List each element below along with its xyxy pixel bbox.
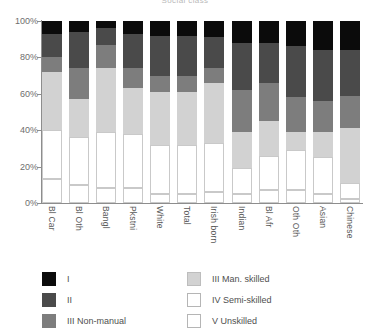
bar-oth-oth[interactable] bbox=[286, 21, 306, 203]
x-axis-label: Indian bbox=[232, 206, 252, 264]
bar-segment bbox=[150, 21, 170, 36]
bar-segment bbox=[286, 21, 306, 46]
bar-segment bbox=[259, 43, 279, 83]
bar-segment bbox=[177, 145, 197, 194]
bar-segment bbox=[259, 156, 279, 191]
bar-segment bbox=[204, 37, 224, 68]
bar-segment bbox=[177, 194, 197, 203]
bar-segment bbox=[96, 45, 116, 69]
y-axis-tick-mark bbox=[37, 21, 41, 22]
legend-swatch-icon bbox=[187, 272, 201, 286]
bar-indian[interactable] bbox=[232, 21, 252, 203]
bar-irish-born[interactable] bbox=[204, 21, 224, 203]
bar-segment bbox=[150, 92, 170, 145]
bar-segment bbox=[313, 157, 333, 193]
legend-item-label: V Unskilled bbox=[212, 316, 257, 326]
bar-segment bbox=[204, 83, 224, 143]
y-axis-tick-label: 60% bbox=[2, 89, 38, 99]
bar-segment bbox=[177, 76, 197, 92]
legend-column-right: III Man. skilledIV Semi-skilledV Unskill… bbox=[187, 272, 342, 328]
x-axis-label: Pkstni bbox=[123, 206, 143, 264]
x-axis-label: Oth Oth bbox=[286, 206, 306, 264]
x-axis-label: Bangl bbox=[96, 206, 116, 264]
bar-segment bbox=[177, 92, 197, 145]
bar-segment bbox=[123, 21, 143, 34]
bar-segment bbox=[150, 145, 170, 194]
bar-segment bbox=[232, 168, 252, 193]
bar-segment bbox=[340, 96, 360, 129]
bar-segment bbox=[340, 183, 360, 199]
bar-segment bbox=[286, 190, 306, 203]
y-axis-tick-mark bbox=[37, 203, 41, 204]
legend-item[interactable]: III Non-manual bbox=[42, 314, 187, 328]
bar-segment bbox=[313, 194, 333, 203]
bar-group bbox=[42, 21, 360, 203]
bar-pkstni[interactable] bbox=[123, 21, 143, 203]
bar-white[interactable] bbox=[150, 21, 170, 203]
y-axis-tick-label: 80% bbox=[2, 52, 38, 62]
x-axis-label: Asian bbox=[313, 206, 333, 264]
bar-bl-oth[interactable] bbox=[69, 21, 89, 203]
bar-segment bbox=[123, 68, 143, 88]
bar-segment bbox=[42, 130, 62, 179]
bar-segment bbox=[286, 132, 306, 150]
bar-segment bbox=[313, 21, 333, 50]
bar-segment bbox=[96, 132, 116, 188]
chart-legend: IIIIII Non-manual III Man. skilledIV Sem… bbox=[42, 272, 342, 328]
bar-segment bbox=[204, 21, 224, 37]
legend-item[interactable]: II bbox=[42, 293, 187, 307]
legend-item-label: III Man. skilled bbox=[212, 274, 270, 284]
bar-segment bbox=[232, 43, 252, 90]
y-axis-tick-mark bbox=[37, 130, 41, 131]
legend-swatch-icon bbox=[187, 293, 201, 307]
bar-segment bbox=[232, 21, 252, 43]
bar-segment bbox=[150, 76, 170, 92]
bar-segment bbox=[42, 21, 62, 34]
bar-segment bbox=[69, 68, 89, 99]
bar-segment bbox=[232, 132, 252, 168]
legend-item[interactable]: IV Semi-skilled bbox=[187, 293, 342, 307]
bar-segment bbox=[340, 21, 360, 50]
stacked-bar-chart: Social class 0%20%40%60%80%100% Bl CarBl… bbox=[0, 0, 370, 331]
bar-segment bbox=[259, 83, 279, 121]
bar-segment bbox=[313, 101, 333, 132]
bar-segment bbox=[123, 188, 143, 203]
y-axis-tick-label: 0% bbox=[2, 198, 38, 208]
bar-segment bbox=[42, 72, 62, 130]
bar-segment bbox=[177, 36, 197, 76]
legend-swatch-icon bbox=[42, 314, 56, 328]
bar-segment bbox=[123, 88, 143, 134]
x-axis-label: White bbox=[150, 206, 170, 264]
bar-bl-afr[interactable] bbox=[259, 21, 279, 203]
bar-segment bbox=[259, 190, 279, 203]
y-axis-tick-label: 40% bbox=[2, 125, 38, 135]
legend-item-label: I bbox=[67, 274, 70, 284]
bar-bangl[interactable] bbox=[96, 21, 116, 203]
bar-segment bbox=[204, 143, 224, 192]
bar-segment bbox=[69, 99, 89, 137]
x-axis-label: Chinese bbox=[340, 206, 360, 264]
bar-segment bbox=[232, 90, 252, 132]
y-axis-tick-label: 100% bbox=[2, 16, 38, 26]
bar-segment bbox=[42, 179, 62, 203]
bar-segment bbox=[313, 50, 333, 101]
bar-segment bbox=[204, 68, 224, 83]
bar-segment bbox=[42, 57, 62, 72]
legend-item[interactable]: V Unskilled bbox=[187, 314, 342, 328]
bar-segment bbox=[340, 199, 360, 203]
bar-total[interactable] bbox=[177, 21, 197, 203]
bar-segment bbox=[340, 50, 360, 96]
bar-segment bbox=[259, 21, 279, 43]
y-axis-tick-mark bbox=[37, 94, 41, 95]
x-axis-label: Bl Afr bbox=[259, 206, 279, 264]
bar-segment bbox=[340, 128, 360, 183]
x-axis-label: Total bbox=[177, 206, 197, 264]
bar-segment bbox=[123, 34, 143, 69]
legend-item[interactable]: III Man. skilled bbox=[187, 272, 342, 286]
x-axis-label: Irish born bbox=[204, 206, 224, 264]
plot-area bbox=[42, 21, 360, 203]
bar-asian[interactable] bbox=[313, 21, 333, 203]
bar-bl-car[interactable] bbox=[42, 21, 62, 203]
legend-item[interactable]: I bbox=[42, 272, 187, 286]
bar-chinese[interactable] bbox=[340, 21, 360, 203]
